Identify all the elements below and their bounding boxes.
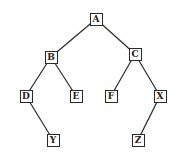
tree-node-y: Y bbox=[47, 134, 60, 147]
tree-node-f: F bbox=[105, 90, 118, 103]
tree-node-a: A bbox=[90, 13, 103, 26]
tree-node-z: Z bbox=[132, 134, 145, 147]
binary-tree-diagram: ABCDEFXYZ bbox=[0, 0, 178, 160]
tree-node-x: X bbox=[154, 90, 167, 103]
tree-node-e: E bbox=[70, 90, 83, 103]
tree-node-b: B bbox=[45, 51, 58, 64]
tree-node-c: C bbox=[129, 48, 142, 61]
tree-node-d: D bbox=[20, 90, 33, 103]
